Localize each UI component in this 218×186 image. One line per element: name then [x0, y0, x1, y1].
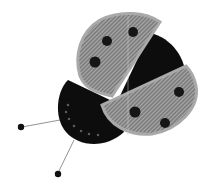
antenna-bead-left: [18, 124, 24, 130]
wing-spot: [174, 87, 184, 97]
wing-spot: [130, 107, 141, 118]
ladybug-illustration: [0, 0, 218, 186]
wing-spot: [90, 57, 101, 68]
ladybug-photo: Grayscale photo of a crocheted ladybug w…: [0, 0, 218, 186]
wing-spot: [160, 118, 170, 128]
antenna-bead-bottom: [55, 171, 61, 177]
wing-spot: [102, 36, 112, 46]
wing-spot: [128, 27, 138, 37]
